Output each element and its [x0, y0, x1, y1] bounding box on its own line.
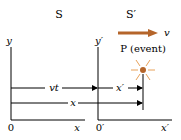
- x-axis-label: x: [74, 122, 80, 133]
- y-axis-label: y: [5, 35, 12, 46]
- event-label: P (event): [120, 43, 166, 54]
- origin-label: 0: [8, 122, 14, 133]
- vt-label: vt: [49, 82, 60, 93]
- velocity-label: v: [164, 27, 170, 38]
- s-axes: [11, 47, 85, 120]
- x-prime-axis-label: x′: [161, 122, 170, 133]
- frame-s-prime-label: S′: [126, 8, 137, 21]
- s-prime-axes: [98, 47, 172, 120]
- y-prime-axis-label: y′: [94, 35, 104, 46]
- velocity-arrow: [118, 29, 158, 37]
- x-prime-distance-label: x′: [116, 82, 125, 93]
- origin-prime-label: 0′: [96, 122, 105, 133]
- x-distance-label: x: [70, 97, 76, 108]
- frame-s-label: S: [55, 8, 63, 21]
- galilean-frames-diagram: S S′ y 0 x y′ 0′ x′ v P (event) vt: [0, 0, 181, 140]
